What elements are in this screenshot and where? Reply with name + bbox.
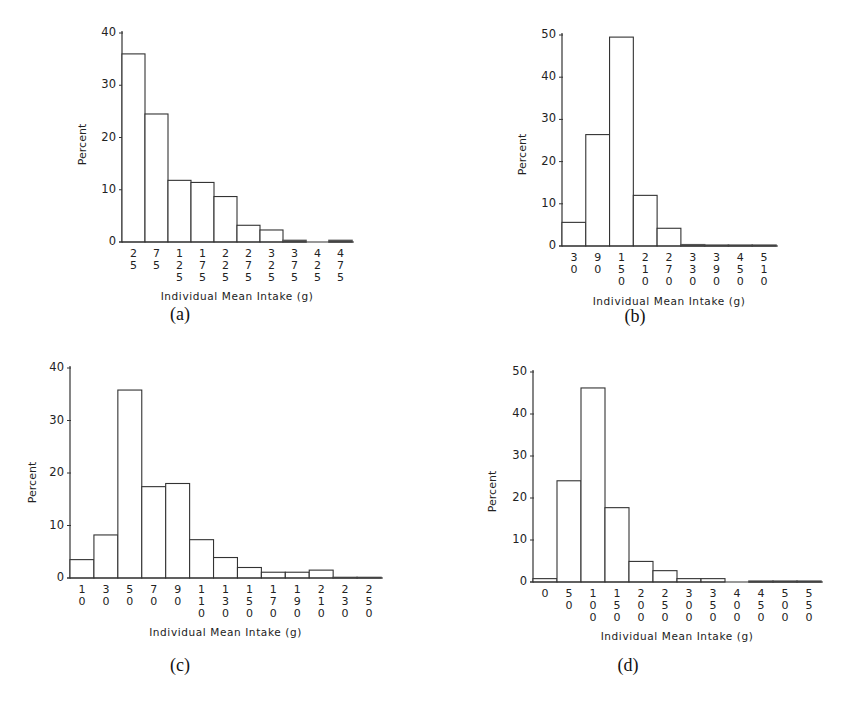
bar-150 bbox=[605, 508, 629, 582]
caption-b: (b) bbox=[605, 306, 665, 327]
caption-a: (a) bbox=[150, 304, 210, 325]
x-axis-label-d: Individual Mean Intake (g) bbox=[533, 630, 821, 642]
caption-c: (c) bbox=[150, 655, 210, 676]
y-axis-label-b: Percent bbox=[516, 134, 529, 175]
caption-d: (d) bbox=[598, 655, 658, 676]
bar-250 bbox=[653, 571, 677, 582]
y-axis-label-d: Percent bbox=[486, 471, 499, 512]
histogram-d bbox=[0, 0, 842, 707]
x-axis-label-a: Individual Mean Intake (g) bbox=[122, 290, 352, 302]
bar-50 bbox=[557, 481, 581, 582]
bar-100 bbox=[581, 388, 605, 582]
bar-200 bbox=[629, 561, 653, 582]
x-axis-label-b: Individual Mean Intake (g) bbox=[562, 295, 776, 307]
x-axis-label-c: Individual Mean Intake (g) bbox=[70, 626, 381, 638]
y-axis-label-a: Percent bbox=[76, 124, 89, 165]
y-axis-label-c: Percent bbox=[26, 462, 39, 503]
